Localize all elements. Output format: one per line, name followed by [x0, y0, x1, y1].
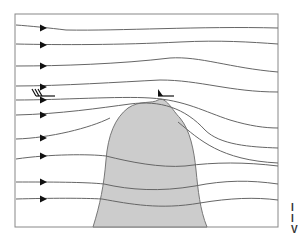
clipped-label-2: I	[291, 214, 294, 224]
airflow-diagram	[0, 0, 300, 241]
clipped-label-1: I	[291, 203, 294, 213]
clipped-label-3: V	[291, 225, 298, 235]
